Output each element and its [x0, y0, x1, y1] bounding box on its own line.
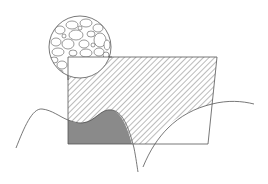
- diagram-canvas: [0, 0, 268, 184]
- diagram-svg: [0, 0, 268, 184]
